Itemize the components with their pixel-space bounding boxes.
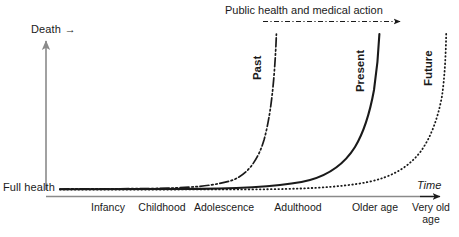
public-health-action-label: Public health and medical action (225, 5, 383, 17)
x-tick-adulthood: Adulthood (262, 202, 334, 213)
full-health-label-text: Full health (3, 181, 55, 193)
y-axis-bottom-label: Full health→ (3, 182, 70, 194)
curve-label-present: Present (354, 50, 366, 92)
time-axis-label: Time (417, 180, 441, 192)
death-label-text: Death (31, 23, 61, 35)
full-health-arrow-glyph: → (59, 181, 70, 193)
y-axis-top-label: Death→ (31, 24, 76, 36)
curve-past (60, 34, 276, 189)
x-tick-infancy: Infancy (80, 202, 136, 213)
curve-label-future: Future (422, 50, 434, 86)
figure-container: Death→ Full health→ Public health and me… (0, 0, 459, 237)
x-tick-very-old-age: Very old age (408, 202, 454, 226)
x-tick-older-age: Older age (340, 202, 410, 213)
x-tick-childhood: Childhood (131, 202, 193, 213)
death-arrow-glyph: → (65, 23, 76, 35)
curve-present (60, 34, 379, 189)
curve-label-past: Past (251, 56, 263, 80)
x-tick-adolescence: Adolescence (185, 202, 263, 213)
